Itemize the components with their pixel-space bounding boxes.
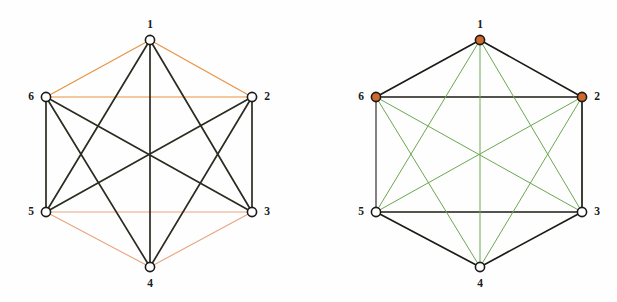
node-label-6: 6 [28, 90, 34, 102]
graph-left-labels: 123456 [28, 18, 270, 289]
figure-root: 123456 123456 [0, 0, 617, 302]
node-3 [247, 207, 256, 216]
node-label-2: 2 [264, 90, 270, 102]
node-2 [247, 92, 256, 101]
node-4 [145, 262, 154, 271]
node-label-2: 2 [594, 90, 600, 102]
node-label-3: 3 [594, 205, 600, 217]
node-4 [475, 262, 484, 271]
graph-right-nodes [371, 35, 586, 271]
edge-4-3 [480, 212, 582, 267]
node-6 [41, 92, 50, 101]
node-6 [371, 92, 380, 101]
graph-right-canvas: 123456 [308, 0, 617, 302]
edge-4-5 [46, 212, 150, 267]
edge-6-4 [376, 97, 480, 267]
graph-left-canvas: 123456 [0, 0, 308, 302]
edge-2-4 [480, 97, 582, 267]
node-label-4: 4 [147, 277, 153, 289]
node-label-1: 1 [477, 18, 483, 30]
edge-4-5 [376, 212, 480, 267]
node-1 [145, 35, 154, 44]
edge-1-2 [150, 40, 252, 97]
node-5 [371, 207, 380, 216]
node-label-5: 5 [358, 205, 364, 217]
node-label-5: 5 [28, 205, 34, 217]
node-label-1: 1 [147, 18, 153, 30]
graph-left-nodes [41, 35, 256, 271]
graph-panel-left: 123456 [0, 0, 308, 302]
graph-left-edges [46, 40, 252, 267]
graph-right-labels: 123456 [358, 18, 600, 289]
node-label-3: 3 [264, 205, 270, 217]
node-label-4: 4 [477, 277, 483, 289]
node-5 [41, 207, 50, 216]
edge-2-4 [150, 97, 252, 267]
edge-1-6 [46, 40, 150, 97]
node-3 [577, 207, 586, 216]
graph-right-edges [376, 40, 582, 267]
edge-4-3 [150, 212, 252, 267]
edge-1-6 [376, 40, 480, 97]
node-2 [577, 92, 586, 101]
node-label-6: 6 [358, 90, 364, 102]
edge-1-2 [480, 40, 582, 97]
graph-panel-right: 123456 [308, 0, 617, 302]
node-1 [475, 35, 484, 44]
